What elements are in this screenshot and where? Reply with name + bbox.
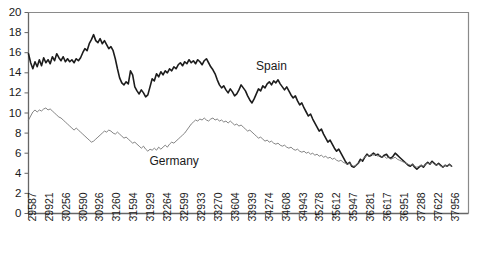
x-tick-label: 34608 — [280, 192, 292, 221]
y-tick-label: 10 — [9, 107, 22, 119]
line-chart: 20181614121086420 2958729921302563059030… — [0, 0, 481, 270]
x-tick-label: 35278 — [313, 192, 325, 221]
y-tick-label: 2 — [15, 187, 21, 199]
x-tick-label: 33939 — [246, 192, 258, 221]
x-tick-label: 31594 — [127, 192, 139, 221]
x-tick-label: 32264 — [161, 192, 173, 221]
x-tick-label: 30590 — [77, 192, 89, 221]
y-tick-label: 18 — [9, 26, 22, 38]
x-tick-label: 36951 — [398, 192, 410, 221]
plot-border — [29, 13, 469, 214]
series-label-germany: Germany — [150, 154, 199, 168]
x-axis: 2958729921302563059030926312603159431929… — [26, 192, 461, 221]
x-tick-label: 36281 — [364, 192, 376, 221]
x-tick-label: 31260 — [110, 192, 122, 221]
chart-canvas: 20181614121086420 2958729921302563059030… — [0, 0, 481, 270]
y-tick-label: 20 — [9, 6, 22, 18]
x-tick-label: 34274 — [263, 192, 275, 221]
y-tick-label: 12 — [9, 86, 22, 98]
y-tick-label: 14 — [9, 66, 22, 78]
x-tick-label: 37956 — [449, 192, 461, 221]
y-tick-label: 0 — [15, 207, 21, 219]
x-tick-label: 34943 — [297, 192, 309, 221]
x-tick-label: 35612 — [330, 192, 342, 221]
x-tick-label: 32599 — [178, 192, 190, 221]
x-tick-label: 29587 — [26, 192, 38, 221]
x-tick-label: 31929 — [144, 192, 156, 221]
series-annotations: SpainGermany — [150, 59, 287, 168]
x-tick-label: 37622 — [432, 192, 444, 221]
x-tick-label: 36617 — [381, 192, 393, 221]
x-tick-label: 33604 — [229, 192, 241, 221]
y-tick-label: 6 — [15, 147, 21, 159]
x-tick-label: 33270 — [212, 192, 224, 221]
series-lines — [29, 35, 452, 170]
x-tick-label: 30256 — [60, 192, 72, 221]
axis-lines — [29, 13, 469, 214]
x-tick-label: 35947 — [347, 192, 359, 221]
plot-frame — [29, 13, 469, 214]
series-line-germany — [29, 108, 452, 167]
series-line-spain — [29, 35, 452, 170]
y-tick-label: 8 — [15, 127, 21, 139]
x-tick-label: 32933 — [195, 192, 207, 221]
x-tick-label: 29921 — [43, 192, 55, 221]
series-label-spain: Spain — [256, 59, 287, 73]
y-axis: 20181614121086420 — [9, 6, 29, 219]
x-tick-label: 30926 — [93, 192, 105, 221]
y-tick-label: 16 — [9, 46, 22, 58]
y-tick-label: 4 — [15, 167, 22, 179]
x-tick-label: 37288 — [415, 192, 427, 221]
